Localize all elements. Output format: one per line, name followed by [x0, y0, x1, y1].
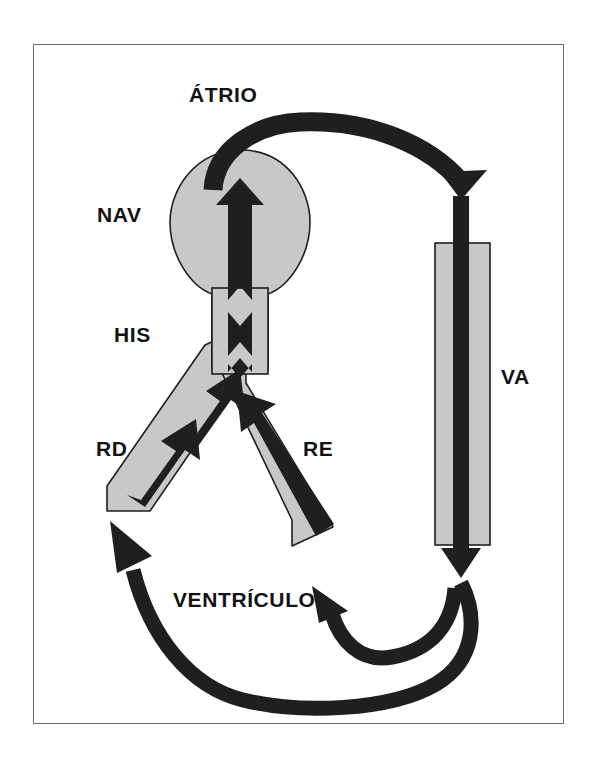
- diagram-canvas: ÁTRIO NAV HIS RD RE VA VENTRÍCULO: [0, 0, 598, 757]
- label-left-bundle-branch: RE: [303, 437, 333, 461]
- label-right-bundle-branch: RD: [96, 437, 128, 461]
- atrium-to-accessory-arrowhead: [440, 170, 487, 200]
- ventricle-return-arc: [110, 521, 471, 708]
- label-ventricle: VENTRÍCULO: [173, 588, 316, 612]
- label-his-bundle: HIS: [114, 323, 151, 347]
- label-accessory-pathway: VA: [501, 365, 530, 389]
- label-atrium: ÁTRIO: [189, 83, 257, 107]
- ventricle-short-arc: [312, 586, 455, 658]
- left-branch-retrograde-arrow: [237, 391, 334, 536]
- label-av-node: NAV: [97, 203, 142, 227]
